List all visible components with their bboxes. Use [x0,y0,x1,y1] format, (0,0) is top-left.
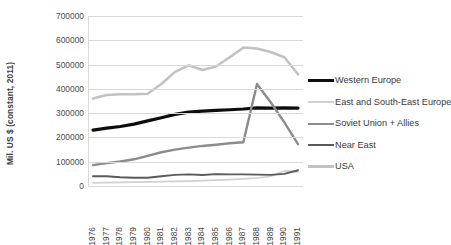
legend-item[interactable]: Near East [308,135,446,157]
legend-item[interactable]: Soviet Union + Allies [308,113,446,135]
y-axis-tick-label: 500000 [28,60,84,68]
legend-item-label: Soviet Union + Allies [334,119,419,128]
x-axis-tick-label: 1991 [294,227,302,245]
legend-color-swatch [308,79,334,82]
y-axis-tick-labels: 0100000200000300000400000500000600000700… [24,0,84,227]
legend-item[interactable]: East and South-East Europe [308,92,446,114]
legend-item-label: East and South-East Europe [334,98,451,107]
gridline [88,186,303,187]
gridline [88,137,303,138]
series-line [93,48,298,99]
y-axis-title: Mil. US $ (constant, 2011) [2,38,18,188]
gridline [88,113,303,114]
x-axis-tick-label: 1986 [226,227,234,245]
x-axis-tick-label: 1983 [185,227,193,245]
x-axis-tick-label: 1977 [103,227,111,245]
x-axis-tick-label: 1989 [267,227,275,245]
series-line [93,108,298,130]
x-axis-tick-label: 1982 [171,227,179,245]
gridline [88,16,303,17]
gridline [88,89,303,90]
legend-item-label: USA [334,162,354,171]
legend-item-label: Western Europe [334,76,401,85]
x-axis-tick-labels: 1976197719781979198019811982198319841985… [88,188,303,227]
legend-item[interactable]: USA [308,156,446,178]
x-axis-tick-label: 1984 [198,227,206,245]
x-axis-tick-label: 1990 [280,227,288,245]
y-axis-tick-label: 300000 [28,109,84,117]
gridline [88,162,303,163]
x-axis-tick-label: 1976 [89,227,97,245]
x-axis-tick-label: 1978 [116,227,124,245]
y-axis-tick-label: 100000 [28,158,84,166]
chart-legend: Western EuropeEast and South-East Europe… [308,70,446,178]
y-axis-tick-label: 700000 [28,12,84,20]
legend-item[interactable]: Western Europe [308,70,446,92]
plot-area [88,16,303,186]
y-axis-tick-label: 0 [28,182,84,190]
x-axis-tick-label: 1979 [130,227,138,245]
y-axis-tick-label: 200000 [28,133,84,141]
legend-color-swatch [308,101,334,103]
legend-color-swatch [308,144,334,146]
gridline [88,40,303,41]
legend-color-swatch [308,165,334,168]
x-axis-tick-label: 1988 [253,227,261,245]
x-axis-tick-label: 1980 [144,227,152,245]
legend-item-label: Near East [334,141,376,150]
series-lines [88,16,303,186]
y-axis-tick-label: 600000 [28,36,84,44]
legend-color-swatch [308,123,334,125]
gridline [88,65,303,66]
x-axis-tick-label: 1987 [239,227,247,245]
x-axis-tick-label: 1981 [157,227,165,245]
y-axis-tick-label: 400000 [28,85,84,93]
x-axis-tick-label: 1985 [212,227,220,245]
